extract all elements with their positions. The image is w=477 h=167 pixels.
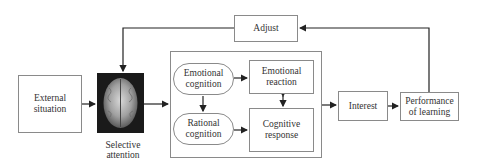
external-situation-node: External situation bbox=[18, 75, 82, 133]
interest-node: Interest bbox=[338, 91, 388, 121]
cognitive-response-node: Cognitive response bbox=[249, 108, 314, 152]
emotional-cognition-label: Emotional cognition bbox=[181, 68, 227, 90]
performance-of-learning-label: Performance of learning bbox=[401, 96, 458, 118]
emotional-reaction-node: Emotional reaction bbox=[249, 60, 314, 94]
cognitive-response-label: Cognitive response bbox=[259, 119, 305, 141]
emotional-cognition-node: Emotional cognition bbox=[173, 63, 234, 95]
performance-of-learning-node: Performance of learning bbox=[400, 92, 459, 121]
selective-attention-label: Selective attention bbox=[88, 140, 158, 160]
brain-image bbox=[97, 73, 144, 133]
adjust-node: Adjust bbox=[234, 15, 298, 42]
rational-cognition-label: Rational cognition bbox=[181, 118, 227, 140]
emotional-reaction-label: Emotional reaction bbox=[259, 66, 305, 88]
rational-cognition-node: Rational cognition bbox=[173, 113, 234, 145]
interest-label: Interest bbox=[349, 101, 378, 112]
adjust-label: Adjust bbox=[253, 23, 278, 34]
brain-icon bbox=[97, 73, 144, 133]
external-situation-label: External situation bbox=[25, 93, 75, 115]
